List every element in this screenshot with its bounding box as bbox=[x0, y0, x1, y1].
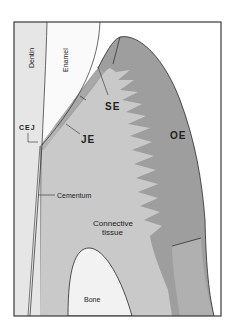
connective-tissue-label-line1: Connective bbox=[93, 219, 134, 228]
cej-label: CEJ bbox=[19, 124, 36, 131]
gingiva-diagram: Dentin Enamel SE JE OE CEJ Cementum Conn… bbox=[0, 0, 233, 331]
je-label: JE bbox=[81, 134, 95, 145]
connective-tissue-label-line2: tissue bbox=[102, 228, 123, 237]
bone-label: Bone bbox=[84, 296, 100, 303]
cementum-label: Cementum bbox=[57, 192, 91, 199]
oe-label: OE bbox=[170, 130, 186, 141]
dentin-label: Dentin bbox=[28, 48, 35, 68]
enamel-label: Enamel bbox=[62, 48, 69, 72]
se-label: SE bbox=[105, 101, 120, 112]
